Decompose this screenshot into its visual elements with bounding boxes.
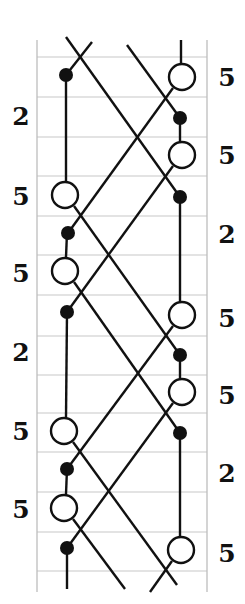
strand-segment <box>68 88 173 233</box>
right-count-label: 5 <box>218 306 235 331</box>
filled-dot-icon <box>173 190 187 204</box>
filled-dot-icon <box>173 348 187 362</box>
left-count-label: 5 <box>12 419 29 444</box>
right-count-label: 2 <box>218 461 235 486</box>
open-circle-icon <box>51 495 77 521</box>
open-circle-icon <box>168 537 194 563</box>
left-count-label: 2 <box>12 340 29 365</box>
filled-dot-icon <box>60 541 74 555</box>
strand-segment <box>150 561 172 592</box>
strand-segment <box>73 442 177 585</box>
strand-diagram <box>0 0 245 604</box>
left-count-label: 5 <box>12 497 29 522</box>
right-count-label: 2 <box>218 222 235 247</box>
strand-segment <box>66 37 180 197</box>
strand-segment <box>66 312 67 417</box>
open-circle-icon <box>169 142 195 168</box>
right-count-label: 5 <box>218 541 235 566</box>
open-circle-icon <box>52 182 78 208</box>
filled-dot-icon <box>173 111 187 125</box>
open-circle-icon <box>169 302 195 328</box>
filled-dot-icon <box>173 426 187 440</box>
open-circle-icon <box>169 379 195 405</box>
left-count-label: 5 <box>12 184 29 209</box>
open-circle-icon <box>52 258 78 284</box>
strand-segment <box>67 403 173 548</box>
strand-segment <box>74 282 180 433</box>
open-circle-icon <box>51 418 77 444</box>
open-circle-icon <box>169 64 195 90</box>
right-count-label: 5 <box>218 143 235 168</box>
filled-dot-icon <box>59 68 73 82</box>
left-count-label: 5 <box>12 261 29 286</box>
filled-dot-icon <box>60 305 74 319</box>
filled-dot-icon <box>61 226 75 240</box>
filled-dot-nodes <box>59 68 187 555</box>
right-count-label: 5 <box>218 383 235 408</box>
right-count-label: 5 <box>218 65 235 90</box>
left-count-label: 2 <box>12 104 29 129</box>
strand-lines <box>66 37 181 592</box>
strand-segment <box>67 166 173 312</box>
strand-segment <box>73 519 125 589</box>
filled-dot-icon <box>60 462 74 476</box>
